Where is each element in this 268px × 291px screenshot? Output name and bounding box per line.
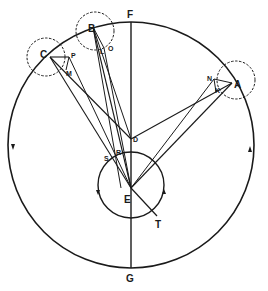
line-e-t bbox=[131, 188, 157, 216]
arrow-up-icon bbox=[248, 146, 252, 152]
line-b-r bbox=[93, 27, 121, 188]
label-s: S bbox=[104, 155, 109, 162]
label-a: A bbox=[234, 79, 241, 90]
line-b-d bbox=[93, 27, 131, 139]
label-p: P bbox=[71, 52, 76, 59]
arrow-up-icon bbox=[162, 189, 166, 194]
label-g: G bbox=[126, 273, 134, 284]
label-b: B bbox=[88, 23, 95, 34]
diagram-canvas: F G E T D A B C N K O L P M S R bbox=[0, 0, 268, 291]
line-p-m bbox=[66, 57, 69, 70]
label-k: K bbox=[215, 87, 220, 94]
label-f: F bbox=[127, 9, 133, 20]
arrow-down-icon bbox=[11, 144, 15, 150]
label-n: N bbox=[207, 75, 212, 82]
label-d: D bbox=[133, 136, 138, 143]
label-t: T bbox=[155, 219, 161, 230]
label-l: L bbox=[100, 48, 105, 55]
line-a-e bbox=[131, 83, 232, 188]
epicycle-diagram: F G E T D A B C N K O L P M S R bbox=[0, 0, 268, 291]
line-p-e bbox=[69, 57, 131, 188]
label-m: M bbox=[66, 70, 72, 77]
label-r: R bbox=[116, 149, 121, 156]
label-e: E bbox=[124, 194, 131, 205]
label-c: C bbox=[40, 49, 47, 60]
line-n-e bbox=[131, 79, 214, 188]
label-o: O bbox=[108, 45, 114, 52]
